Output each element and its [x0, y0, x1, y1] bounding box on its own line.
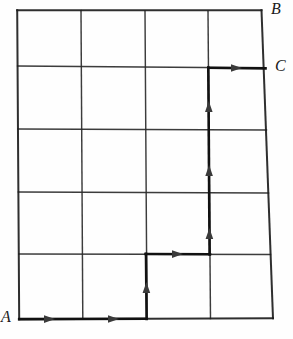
- arrow-right-icon: [44, 315, 55, 323]
- arrow-up-icon: [143, 282, 151, 293]
- horizontal-grid-line: [18, 129, 267, 130]
- horizontal-grid-lines: [18, 66, 271, 255]
- grid-border-left: [17, 10, 19, 319]
- arrow-right-icon: [108, 315, 119, 323]
- arrow-right-icon: [231, 64, 242, 72]
- path-arrowheads: [44, 64, 242, 323]
- grid-border-right: [262, 10, 274, 318]
- path-segment-up-2: [208, 68, 209, 255]
- arrow-up-icon: [205, 101, 213, 112]
- arrow-right-icon: [172, 250, 183, 258]
- arrow-up-icon: [205, 165, 213, 176]
- vertex-label-a: A: [1, 309, 11, 325]
- horizontal-grid-line: [18, 192, 268, 193]
- arrow-up-icon: [206, 228, 214, 239]
- lattice-path-figure: A B C: [0, 0, 293, 339]
- vertical-grid-line: [81, 11, 83, 319]
- grid-diagram-canvas: [0, 0, 293, 339]
- vertex-label-b: B: [271, 1, 281, 17]
- vertex-label-c: C: [275, 58, 286, 74]
